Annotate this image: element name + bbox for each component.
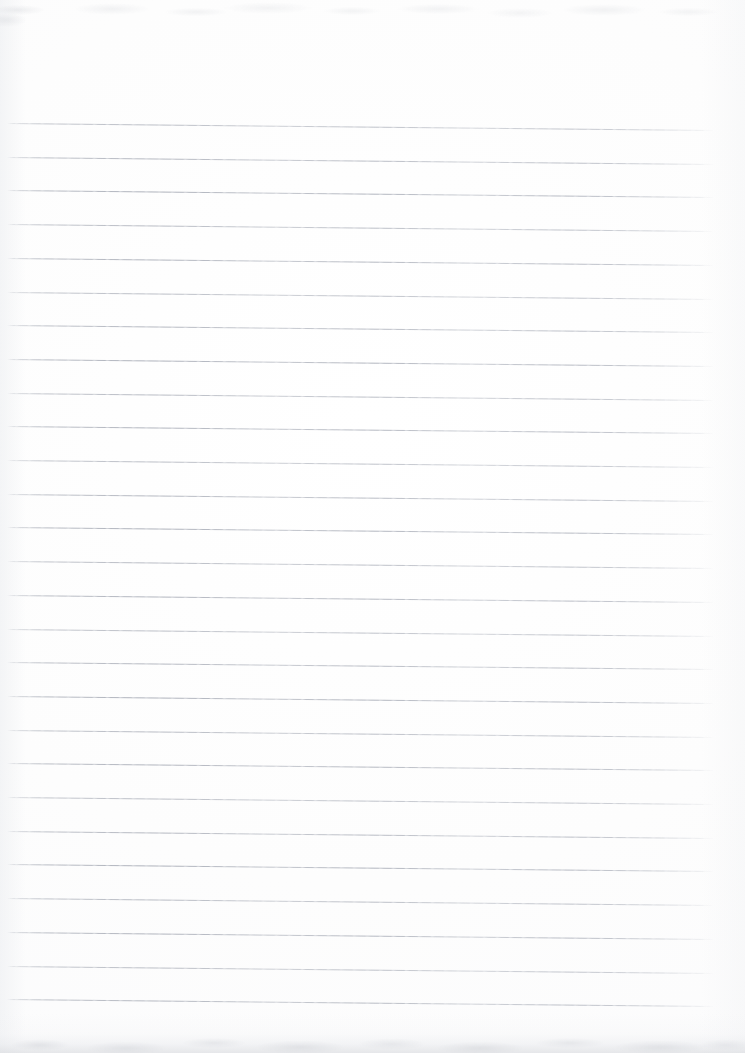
paper-background [0, 0, 745, 1053]
scanned-page [0, 0, 745, 1053]
